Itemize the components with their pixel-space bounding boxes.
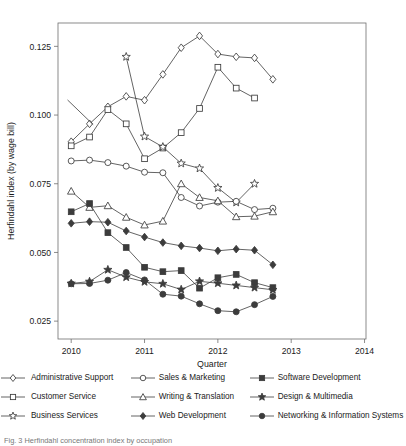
legend-marker-swatch (130, 410, 156, 422)
filled-circle-marker (197, 301, 203, 307)
filled-diamond-marker (68, 220, 74, 228)
filled-circle-marker (233, 309, 239, 315)
legend-row: Administrative SupportSales & MarketingS… (0, 368, 406, 387)
filled-diamond-marker (140, 412, 146, 419)
legend-label: Networking & Information Systems (278, 406, 406, 425)
legend-key-open-square-icon (0, 387, 31, 406)
filled-circle-marker (87, 280, 93, 286)
filled-circle-marker (178, 293, 184, 299)
y-axis-label: Herfindahl index (by wage bill) (6, 122, 16, 240)
series-line (71, 273, 273, 312)
series-line (71, 36, 273, 142)
open-triangle-marker (159, 217, 166, 224)
open-square-marker (252, 95, 258, 101)
open-circle-marker (233, 198, 239, 204)
filled-star-marker (232, 281, 240, 289)
series-4 (68, 180, 277, 228)
filled-diamond-marker (251, 246, 257, 254)
open-square-marker (197, 106, 203, 112)
series-5 (68, 218, 276, 269)
chart-legend: Administrative SupportSales & MarketingS… (0, 368, 406, 426)
y-tick-label: 0.075 (29, 179, 51, 189)
open-square-marker (10, 394, 15, 399)
open-star-marker (122, 53, 130, 61)
series-6 (68, 201, 275, 291)
filled-square-marker (87, 201, 93, 207)
legend-marker-swatch (249, 391, 275, 403)
legend-marker-swatch (0, 410, 26, 422)
series-line (71, 270, 273, 290)
open-square-marker (215, 64, 221, 70)
legend-label: Administrative Support (31, 368, 130, 387)
legend-marker-swatch (0, 372, 26, 384)
filled-circle-marker (123, 270, 129, 276)
open-square-marker (123, 121, 129, 127)
filled-square-marker (68, 209, 74, 215)
open-diamond-marker (10, 374, 16, 381)
series-7 (67, 265, 277, 293)
open-square-marker (105, 107, 111, 113)
filled-diamond-marker (178, 242, 184, 250)
open-triangle-marker (68, 187, 75, 194)
open-triangle-marker (104, 202, 111, 209)
figure-container: 0.0250.0500.0750.1000.125201020112012201… (0, 0, 406, 446)
open-star-marker (195, 164, 203, 172)
herfindahl-line-chart: 0.0250.0500.0750.1000.125201020112012201… (0, 0, 406, 370)
legend-label: Sales & Marketing (159, 368, 250, 387)
legend-key-open-triangle-icon (130, 387, 158, 406)
filled-circle-marker (215, 308, 221, 314)
legend-key-filled-star-icon (249, 387, 277, 406)
filled-square-marker (197, 285, 203, 291)
open-circle-marker (160, 170, 166, 176)
filled-diamond-marker (123, 227, 129, 235)
filled-star-marker (177, 285, 185, 293)
plot-frame (58, 23, 366, 339)
filled-diamond-marker (141, 233, 147, 241)
open-circle-marker (68, 158, 74, 164)
legend-marker-swatch (249, 410, 275, 422)
open-square-marker (178, 130, 184, 136)
filled-square-marker (105, 230, 111, 236)
legend-key-open-diamond-icon (0, 368, 31, 387)
open-star-marker (250, 179, 258, 187)
series-0 (68, 32, 276, 145)
filled-diamond-marker (233, 245, 239, 253)
legend-key-open-circle-icon (130, 368, 158, 387)
open-square-marker (68, 143, 74, 149)
series-2 (122, 53, 259, 206)
filled-diamond-marker (160, 239, 166, 247)
filled-circle-marker (270, 293, 276, 299)
x-tick-label: 2010 (62, 346, 81, 356)
open-square-marker (87, 134, 93, 140)
open-square-marker (142, 156, 148, 162)
legend-label: Writing & Translation (159, 387, 250, 406)
filled-star-marker (195, 277, 203, 285)
open-star-marker (140, 132, 148, 140)
legend-marker-swatch (249, 372, 275, 384)
filled-circle-marker (68, 281, 74, 287)
open-triangle-marker (123, 214, 130, 221)
filled-star-marker (159, 279, 167, 287)
filled-square-marker (233, 272, 239, 278)
filled-square-marker (160, 269, 166, 275)
open-triangle-marker (178, 180, 185, 187)
open-circle-marker (87, 157, 93, 163)
filled-circle-marker (259, 413, 265, 419)
filled-diamond-marker (270, 261, 276, 269)
legend-key-filled-square-icon (249, 368, 277, 387)
y-tick-label: 0.050 (29, 248, 51, 258)
open-diamond-marker (233, 53, 239, 61)
filled-diamond-marker (86, 218, 92, 226)
open-circle-marker (105, 160, 111, 166)
x-tick-label: 2014 (355, 346, 374, 356)
filled-circle-marker (252, 302, 258, 308)
open-triangle-marker (196, 194, 203, 201)
filled-diamond-marker (215, 247, 221, 255)
series-line (71, 222, 273, 265)
filled-square-marker (123, 245, 129, 251)
open-circle-marker (197, 203, 203, 209)
filled-square-marker (260, 375, 265, 380)
figure-caption: Fig. 3 Herfindahl concentration index by… (4, 436, 404, 446)
open-circle-marker (142, 169, 148, 175)
annotation-leader-line (68, 100, 94, 125)
